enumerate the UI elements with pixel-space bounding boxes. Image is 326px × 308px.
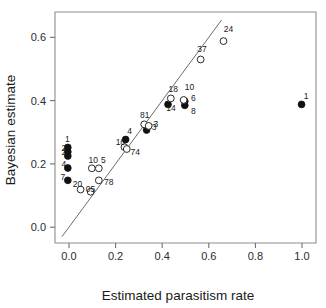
x-tick-label: 1.0 [294,250,309,262]
data-point-label: 3 [153,119,158,129]
plot-frame [55,12,316,243]
data-point-filled [64,177,71,184]
data-point-open [180,97,187,104]
data-point-label: 05 [86,184,96,194]
data-point-open [95,165,102,172]
data-point-open [220,38,227,45]
data-points [64,38,305,195]
data-point-open [197,56,204,63]
plot-canvas: 0.00.20.40.60.81.00.00.20.40.6 122474314… [0,0,326,308]
x-axis-title: Estimated parasitism rate [102,288,254,303]
axis-tick-labels: 0.00.20.40.60.81.00.00.20.40.6 [31,31,310,262]
data-point-open [167,95,174,102]
data-point-label: 1 [304,91,309,101]
data-point-label: 10 [89,155,99,165]
y-axis-title: Bayesian estimate [3,75,18,185]
data-point-label: 6 [191,93,196,103]
data-point-label: 10 [185,82,195,92]
x-tick-label: 0.2 [108,250,123,262]
y-tick-label: 0.0 [31,221,46,233]
data-point-open [95,177,102,184]
x-tick-label: 0.4 [155,250,170,262]
data-point-label: 78 [104,177,114,187]
data-point-label: 14 [166,103,176,113]
data-point-label: 81 [140,110,150,120]
y-tick-label: 0.2 [31,158,46,170]
x-tick-label: 0.0 [61,250,76,262]
x-tick-label: 0.8 [248,250,263,262]
y-tick-label: 0.4 [31,95,46,107]
data-point-label: 20 [73,179,83,189]
data-point-label: 5 [101,155,106,165]
x-tick-label: 0.6 [201,250,216,262]
y-tick-label: 0.6 [31,31,46,43]
data-point-open [88,165,95,172]
axis-ticks [50,37,302,248]
data-point-label: 4 [62,159,67,169]
data-point-label: 7 [61,172,66,182]
data-point-label: 18 [169,84,179,94]
data-point-label: 37 [197,44,207,54]
data-point-label: 74 [130,147,140,157]
data-point-filled [298,101,305,108]
data-point-label: 8 [191,106,196,116]
data-point-label: 4 [127,126,132,136]
data-point-label: 2 [62,147,67,157]
data-point-label: 24 [224,24,234,34]
scatter-plot-figure: 0.00.20.40.60.81.00.00.20.40.6 122474314… [0,0,326,308]
data-point-label: 16 [116,137,126,147]
